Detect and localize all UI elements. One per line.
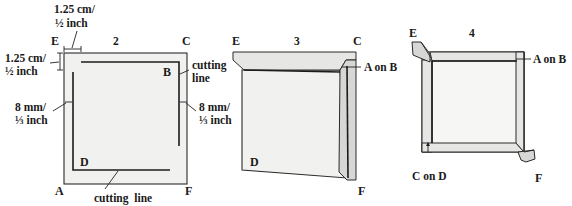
leader-line (72, 31, 77, 48)
corner-label-a: A (55, 184, 64, 198)
step-number: 2 (113, 35, 119, 47)
annotation-left-gap: ⅓ inch (15, 114, 48, 126)
folded-strip-right (516, 52, 524, 152)
paper-center (432, 61, 516, 143)
folded-strip-top (233, 52, 356, 70)
panel-step-4: 4 E F A on B C on D (409, 26, 567, 185)
annotation-a-on-b: A on B (533, 53, 567, 65)
corner-label-f: F (358, 184, 365, 198)
corner-label-f: F (185, 184, 192, 198)
panel-step-2: 2 E C B D A F 1.25 cm/ ½ inch 1.25 cm/ ½… (5, 3, 232, 205)
corner-label-b: B (163, 65, 171, 79)
leader-line (50, 62, 59, 63)
folding-instructions-diagram: 2 E C B D A F 1.25 cm/ ½ inch 1.25 cm/ ½… (0, 0, 572, 206)
annotation-c-on-d: C on D (412, 170, 447, 182)
annotation-top-margin: 1.25 cm/ (54, 3, 96, 15)
folded-strip-left (422, 60, 432, 152)
corner-label-e: E (51, 34, 59, 48)
corner-label-c: C (182, 34, 191, 48)
folded-strip-top (430, 52, 524, 61)
annotation-cutting-line-bottom: cutting line (94, 192, 152, 205)
annotation-cutting-line-right: cutting (192, 59, 227, 72)
corner-label-f: F (535, 171, 542, 185)
crease-line-right (347, 66, 348, 178)
corner-label-d: D (80, 155, 89, 169)
folded-strip-bottom (422, 143, 524, 152)
annotation-right-gap: 8 mm/ (199, 101, 231, 113)
annotation-left-margin: ½ inch (5, 65, 38, 77)
annotation-cutting-line-right: line (192, 72, 210, 84)
corner-label-e: E (409, 26, 417, 40)
annotation-right-gap: ⅓ inch (199, 114, 232, 126)
panel-step-3: 3 E C D F A on B (232, 34, 398, 198)
corner-label-d: D (250, 155, 259, 169)
corner-label-e: E (232, 34, 240, 48)
step-number: 3 (294, 35, 300, 47)
corner-label-c: C (353, 34, 362, 48)
annotation-left-gap: 8 mm/ (15, 101, 47, 113)
step-number: 4 (469, 27, 475, 39)
annotation-left-margin: 1.25 cm/ (5, 52, 47, 64)
annotation-top-margin: ½ inch (55, 17, 88, 29)
annotation-a-on-b: A on B (364, 61, 398, 73)
